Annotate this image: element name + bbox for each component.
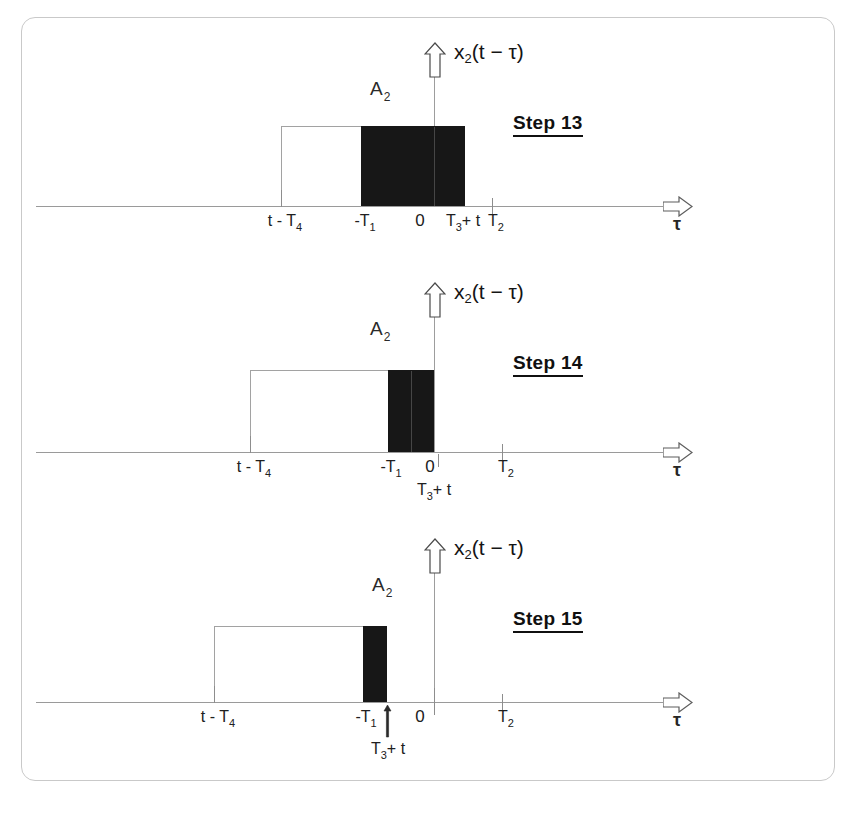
- amplitude-axis-arrow-icon: [424, 538, 446, 572]
- signal-name-suffix: (t − τ): [472, 280, 524, 303]
- step-title: Step 14: [513, 352, 583, 377]
- signal-name-subscript: 2: [465, 547, 472, 562]
- amplitude-label-prefix: A: [370, 78, 383, 99]
- pulse-filled-segment: [363, 626, 387, 702]
- signal-name-suffix: (t − τ): [472, 536, 524, 559]
- pulse-seam-line: [434, 127, 435, 206]
- tick-origin-marker: [434, 688, 435, 715]
- signal-name-label: x2(t − τ): [454, 40, 524, 64]
- tick-subscript: 2: [508, 717, 514, 729]
- tick-subscript: 3: [456, 221, 462, 233]
- signal-name-prefix: x: [454, 280, 465, 303]
- tick-text: -T: [354, 212, 369, 229]
- step-title: Step 15: [513, 608, 583, 633]
- T3-plus-t-pointer-arrow-icon: [383, 704, 392, 738]
- tick-subscript: 1: [369, 221, 375, 233]
- tick-subscript: 3: [427, 490, 433, 502]
- tick-text: t - T: [268, 212, 296, 229]
- signal-name-prefix: x: [454, 40, 465, 63]
- tick-text: -T: [380, 458, 395, 475]
- tick-label-minus-T1: -T1: [354, 212, 375, 230]
- tau-axis-label: τ: [673, 214, 681, 235]
- tick-subscript: 1: [370, 717, 376, 729]
- amplitude-label-prefix: A: [370, 318, 383, 339]
- amplitude-label: A2: [370, 78, 389, 100]
- tick-subscript: 3: [381, 749, 387, 761]
- tick-subscript: 4: [229, 717, 235, 729]
- panel-step-15: τ x2(t − τ) A2 Step 15 t - T4 -T1: [22, 516, 836, 778]
- tick-label-t-minus-T4: t - T4: [268, 212, 302, 230]
- pulse-open-segment: [250, 370, 389, 453]
- tick-label-origin: 0: [415, 707, 424, 727]
- tick-text: t - T: [237, 458, 265, 475]
- pulse-seam-line: [411, 371, 412, 452]
- tau-axis-label: τ: [673, 460, 681, 481]
- amplitude-axis-stem: [434, 316, 435, 453]
- amplitude-label: A2: [370, 318, 389, 340]
- amplitude-label-subscript: 2: [384, 330, 391, 344]
- tick-subscript: 1: [395, 467, 401, 479]
- pulse-open-segment: [214, 626, 364, 703]
- tick-text: T: [371, 740, 381, 757]
- figure-frame: τ x2(t − τ) A2 Step 13 t - T4 -T1 0: [21, 17, 835, 781]
- tick-t-minus-T4: [250, 436, 251, 453]
- tick-label-minus-T1: -T1: [380, 458, 401, 476]
- amplitude-label-subscript: 2: [386, 586, 393, 600]
- tau-axis-label: τ: [673, 710, 681, 731]
- tick-subscript: 4: [265, 467, 271, 479]
- tick-text-post: + t: [433, 481, 451, 498]
- pulse-open-segment: [281, 126, 362, 207]
- tick-text: T: [498, 458, 508, 475]
- signal-name-label: x2(t − τ): [454, 536, 524, 560]
- signal-name-subscript: 2: [465, 51, 472, 66]
- pulse-filled-segment: [361, 126, 465, 206]
- tick-text: 0: [415, 707, 424, 726]
- signal-name-subscript: 2: [465, 291, 472, 306]
- signal-name-prefix: x: [454, 536, 465, 559]
- tick-label-minus-T1: -T1: [355, 708, 376, 726]
- tick-t-minus-T4: [214, 686, 215, 703]
- tick-label-T3-plus-t: T3+ t: [371, 740, 405, 758]
- tick-text: T: [498, 708, 508, 725]
- amplitude-label-subscript: 2: [384, 90, 391, 104]
- tick-label-T3-plus-t: T3+ t: [446, 212, 480, 230]
- tick-t-minus-T4: [281, 190, 282, 207]
- amplitude-label-prefix: A: [372, 574, 385, 595]
- amplitude-axis-stem: [434, 572, 435, 703]
- tick-label-origin: 0: [425, 457, 434, 477]
- tick-subscript: 4: [296, 221, 302, 233]
- tick-text: T: [417, 481, 427, 498]
- tick-label-origin: 0: [415, 211, 424, 231]
- step-title: Step 13: [513, 112, 583, 137]
- tick-label-T2: T2: [498, 458, 514, 476]
- signal-name-label: x2(t − τ): [454, 280, 524, 304]
- amplitude-axis-arrow-icon: [424, 282, 446, 316]
- tick-label-t-minus-T4: t - T4: [237, 458, 271, 476]
- amplitude-axis-arrow-icon: [424, 42, 446, 76]
- tick-text: 0: [415, 211, 424, 230]
- tick-text-post: + t: [462, 212, 480, 229]
- tick-subscript: 2: [508, 467, 514, 479]
- tick-label-T2: T2: [488, 212, 504, 230]
- tick-origin-marker: [438, 454, 439, 467]
- tick-subscript: 2: [498, 221, 504, 233]
- tick-text-post: + t: [387, 740, 405, 757]
- tick-text: T: [488, 212, 498, 229]
- signal-name-suffix: (t − τ): [472, 40, 524, 63]
- tick-label-T2: T2: [498, 708, 514, 726]
- panel-step-13: τ x2(t − τ) A2 Step 13 t - T4 -T1 0: [22, 18, 836, 268]
- tick-text: 0: [425, 457, 434, 476]
- tick-label-t-minus-T4: t - T4: [201, 708, 235, 726]
- tick-text: -T: [355, 708, 370, 725]
- tick-text: t - T: [201, 708, 229, 725]
- amplitude-label: A2: [372, 574, 391, 596]
- tick-text: T: [446, 212, 456, 229]
- tick-label-T3-plus-t: T3+ t: [417, 481, 451, 499]
- panel-step-14: τ x2(t − τ) A2 Step 14 t - T4 -T1 0: [22, 266, 836, 518]
